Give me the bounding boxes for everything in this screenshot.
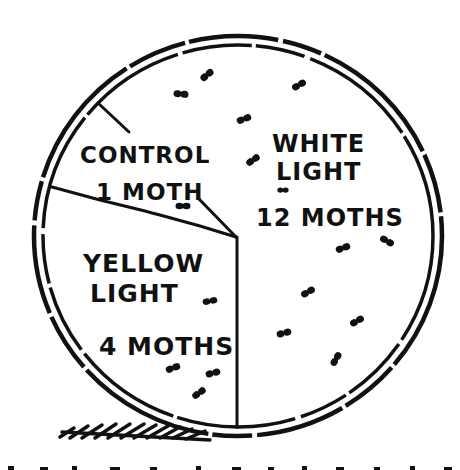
section-labels: CONTROL 1 MOTH WHITE LIGHT 12 MOTHS YELL… [80,130,404,361]
moth-icon [379,234,395,248]
moth-icon [245,153,261,167]
label-white-count: 12 MOTHS [256,204,404,232]
moth-icon [349,314,365,328]
moth-light-pie-illustration: CONTROL 1 MOTH WHITE LIGHT 12 MOTHS YELL… [0,0,460,470]
label-yellow-count: 4 MOTHS [99,332,234,361]
moth-icon [199,67,215,82]
moth-icon [300,285,316,299]
moth-icon [335,242,351,254]
label-yellow-light: LIGHT [90,279,179,308]
label-white: WHITE [272,130,365,158]
label-control-count: 1 MOTH [96,179,203,205]
moth-icon [291,78,307,92]
label-white-light: LIGHT [276,158,361,186]
caption-cutoff [8,466,452,470]
label-yellow: YELLOW [82,249,204,278]
label-control: CONTROL [80,142,210,168]
moth-icon [236,113,252,125]
moth-icon [276,328,292,339]
control-pointer-line [98,103,129,132]
moth-icon [205,368,221,379]
moth-icon [173,90,189,98]
moth-icon [329,351,343,367]
moth-icon [165,362,181,374]
moth-icon [277,187,288,192]
moth-icon [202,297,218,306]
moth-icon [191,386,207,400]
